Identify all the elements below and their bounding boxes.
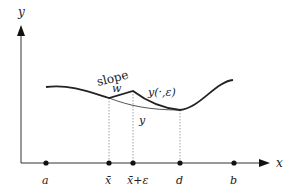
point-label-xbar: x̄	[105, 174, 112, 187]
point-label-a: a	[42, 174, 49, 187]
point-b	[231, 160, 236, 165]
perturbed-curve	[46, 80, 233, 110]
diagram-canvas: y x slope w y(·,ε) y a x̄ x̄+ε d b	[0, 0, 297, 188]
slope-var-label: w	[112, 82, 122, 95]
point-a	[43, 160, 48, 165]
point-label-xbar-eps: x̄+ε	[127, 174, 148, 187]
perturbed-curve-label: y(·,ε)	[147, 86, 176, 99]
y-axis-arrow-icon	[17, 25, 25, 36]
x-axis-arrow-icon	[259, 159, 270, 167]
point-label-d: d	[176, 174, 183, 187]
point-d	[177, 160, 182, 165]
base-curve-label: y	[138, 114, 146, 127]
point-xbar-eps	[130, 160, 135, 165]
y-axis-label: y	[17, 5, 25, 19]
x-axis-label: x	[276, 156, 283, 170]
point-xbar	[106, 160, 111, 165]
point-label-b: b	[230, 174, 237, 187]
